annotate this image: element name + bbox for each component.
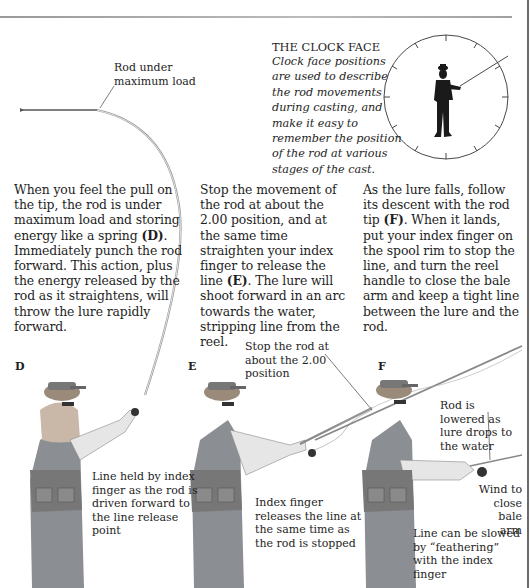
figure-e-caption-top: Stop the rod at about the 2.00 position (245, 340, 350, 381)
clock-face-description: Clock face positions are used to describ… (272, 54, 402, 177)
angler-e (190, 354, 372, 588)
column-d-text: When you feel the pull on the tip, the r… (14, 182, 192, 334)
figure-e-label: E (188, 360, 196, 373)
column-e-text: Stop the movement of the rod at about th… (200, 182, 350, 349)
figure-d-caption: Line held by index finger as the rod is … (92, 470, 204, 538)
column-f-text: As the lure falls, follow its descent wi… (363, 182, 523, 334)
clock-face-title: THE CLOCK FACE (272, 40, 380, 54)
angler-silhouette (434, 64, 461, 137)
figure-f-caption-feather: Line can be slowed by “feathering” with … (413, 527, 521, 581)
figure-f-label: F (378, 360, 386, 373)
ref-e: (E) (227, 273, 248, 288)
ref-f: (F) (383, 212, 403, 227)
figure-e-caption: Index finger releases the line at the sa… (255, 496, 367, 550)
figure-f-caption-rod: Rod is lowered as lure drops to the wate… (440, 399, 520, 453)
figure-d-label: D (15, 360, 25, 373)
clock-face-diagram (384, 35, 508, 159)
ref-d: (D) (141, 228, 163, 243)
rod-max-load-label: Rod under maximum load (114, 61, 224, 88)
